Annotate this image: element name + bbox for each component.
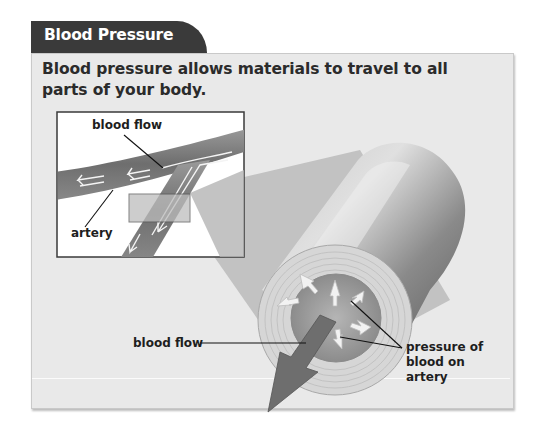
cross-section-blood-flow-label: blood flow (133, 336, 203, 351)
pressure-label-line1: pressure of (406, 340, 483, 355)
pressure-label-line3: artery (406, 370, 448, 385)
pressure-label-line2: blood on (406, 355, 465, 370)
inset-artery-label: artery (71, 226, 113, 241)
inset-blood-flow-label: blood flow (92, 118, 162, 133)
